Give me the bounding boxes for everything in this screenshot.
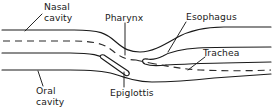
oral-cavity-upper-wall xyxy=(2,53,108,60)
label-epiglottis: Epiglottis xyxy=(110,88,154,99)
label-nasal-cavity-line1: Nasal xyxy=(44,2,72,13)
label-esophagus: Esophagus xyxy=(186,12,237,23)
label-pharynx-text: Pharynx xyxy=(105,13,143,24)
esophagus-fork-tip xyxy=(143,59,166,66)
label-epiglottis-text: Epiglottis xyxy=(110,88,154,99)
leader-line-oral-cavity xyxy=(38,71,43,86)
label-oral-cavity-line1: Oral xyxy=(36,86,64,97)
oral-cavity-lower-wall xyxy=(2,70,271,82)
leader-line-esophagus xyxy=(168,22,186,52)
anatomy-diagram: Nasal cavity Pharynx Esophagus Trachea E… xyxy=(0,0,273,112)
trachea-upper-wall xyxy=(166,62,271,65)
label-oral-cavity-line2: cavity xyxy=(36,97,64,108)
label-esophagus-text: Esophagus xyxy=(186,12,237,23)
label-trachea: Trachea xyxy=(203,48,240,59)
label-nasal-cavity: Nasal cavity xyxy=(44,2,72,23)
trachea-dashed-midline xyxy=(150,63,271,71)
label-trachea-text: Trachea xyxy=(203,48,240,59)
label-oral-cavity: Oral cavity xyxy=(36,86,64,107)
leader-line-nasal-cavity xyxy=(25,14,42,31)
nasal-cavity-dashed-midline xyxy=(3,41,136,60)
label-pharynx: Pharynx xyxy=(105,13,143,24)
label-nasal-cavity-line2: cavity xyxy=(44,13,72,24)
